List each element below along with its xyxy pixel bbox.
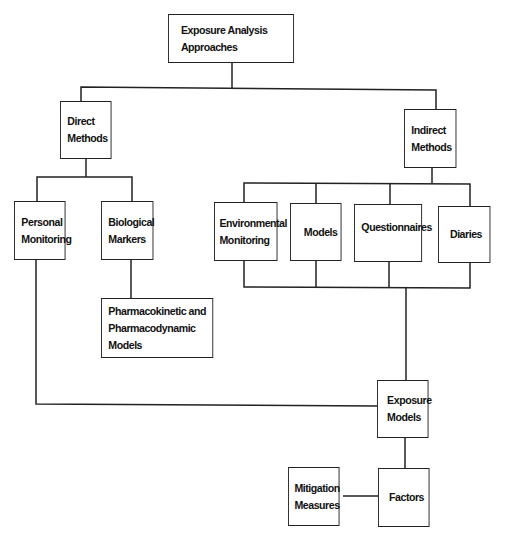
node-exposure-models: Exposure Models	[377, 380, 429, 438]
node-factors: Factors	[378, 468, 430, 527]
node-pharmacokinetic-pharmacodynamic-models: Pharmacokinetic and Pharmacodynamic Mode…	[101, 298, 213, 358]
node-direct-methods: Direct Methods	[60, 101, 112, 159]
node-indirect-methods: Indirect Methods	[404, 109, 456, 168]
node-label: Biological Markers	[108, 214, 154, 248]
node-models: Models	[290, 203, 342, 261]
connector-lines	[0, 0, 508, 544]
flowchart-canvas: Exposure Analysis Approaches Direct Meth…	[0, 0, 508, 544]
node-environmental-monitoring: Environmental Monitoring	[214, 202, 277, 261]
node-questionnaires: Questionnaires	[354, 204, 422, 262]
node-mitigation-measures: Mitigation Measures	[288, 467, 340, 526]
connector-indirect-top	[244, 183, 470, 206]
node-exposure-analysis-approaches: Exposure Analysis Approaches	[168, 14, 294, 63]
node-label: Direct Methods	[67, 113, 107, 147]
node-personal-monitoring: Personal Monitoring	[14, 201, 66, 260]
node-label: Diaries	[450, 226, 482, 243]
node-label: Models	[304, 224, 338, 241]
connector-direct-branches	[37, 177, 132, 201]
node-label: Pharmacokinetic and Pharmacodynamic Mode…	[108, 303, 212, 354]
node-label: Environmental Monitoring	[220, 215, 288, 249]
node-label: Exposure Models	[387, 392, 432, 426]
node-label: Questionnaires	[361, 219, 432, 236]
connector-indirect-bottom	[244, 260, 470, 288]
node-label: Exposure Analysis Approaches	[181, 22, 267, 56]
node-biological-markers: Biological Markers	[101, 201, 153, 260]
node-diaries: Diaries	[438, 206, 490, 263]
connector-root-branches	[81, 87, 436, 109]
node-label: Personal Monitoring	[21, 214, 71, 248]
node-label: Factors	[389, 489, 424, 506]
node-label: Mitigation Measures	[294, 480, 339, 514]
node-label: Indirect Methods	[411, 122, 451, 156]
